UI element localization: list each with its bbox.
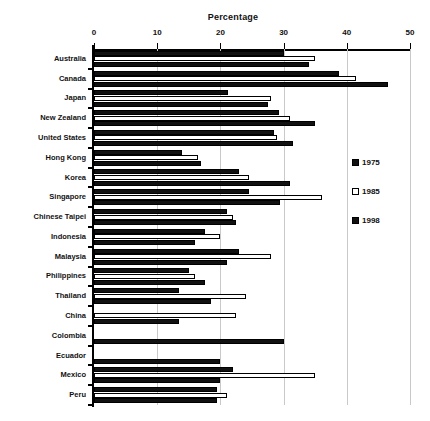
- chart-row: Peru: [0, 385, 430, 405]
- category-label: China: [0, 311, 86, 320]
- bar-1998: [94, 102, 268, 107]
- bar-1985: [94, 274, 195, 279]
- bar-1985: [94, 195, 322, 200]
- legend-label: 1975: [362, 158, 380, 167]
- bar-1998: [94, 121, 315, 126]
- x-tick-label: 50: [406, 28, 415, 37]
- bar-1998: [94, 161, 201, 166]
- bar-1998: [94, 378, 220, 383]
- bar-1985: [94, 175, 249, 180]
- x-tick-label: 30: [279, 28, 288, 37]
- chart-row: Ecuador: [0, 346, 430, 366]
- bar-1975: [94, 150, 182, 155]
- bar-1985: [94, 393, 227, 398]
- bar-1998: [94, 260, 227, 265]
- legend-item: 1998: [352, 216, 380, 225]
- bar-1998: [94, 82, 388, 87]
- category-label: Australia: [0, 54, 86, 63]
- bar-1985: [94, 373, 315, 378]
- bar-1998: [94, 220, 236, 225]
- bar-1985: [94, 96, 271, 101]
- chart-title: Percentage: [0, 12, 430, 22]
- chart-row: Philippines: [0, 267, 430, 287]
- chart-row: Japan: [0, 89, 430, 109]
- category-label: Colombia: [0, 331, 86, 340]
- bar-1975: [94, 229, 205, 234]
- bar-1975: [94, 288, 179, 293]
- bar-1998: [94, 181, 290, 186]
- category-label: Philippines: [0, 271, 86, 280]
- bar-1985: [94, 215, 233, 220]
- category-label: Japan: [0, 93, 86, 102]
- legend-label: 1998: [362, 216, 380, 225]
- bar-1998: [94, 359, 220, 364]
- chart-row: United States: [0, 128, 430, 148]
- bar-1985: [94, 294, 246, 299]
- bar-1975: [94, 209, 227, 214]
- bar-1985: [94, 116, 290, 121]
- x-tick-label: 10: [153, 28, 162, 37]
- x-tick-label: 0: [92, 28, 96, 37]
- bar-1998: [94, 339, 284, 344]
- legend-swatch-icon: [352, 159, 359, 166]
- bar-1975: [94, 51, 284, 56]
- chart-row: Canada: [0, 69, 430, 89]
- bar-1985: [94, 155, 198, 160]
- legend-swatch-icon: [352, 188, 359, 195]
- bar-1975: [94, 367, 233, 372]
- category-label: Indonesia: [0, 232, 86, 241]
- chart-row: New Zealand: [0, 108, 430, 128]
- bar-chart: Percentage 01020304050 AustraliaCanadaJa…: [0, 0, 430, 421]
- chart-row: Indonesia: [0, 227, 430, 247]
- category-label: Peru: [0, 390, 86, 399]
- category-label: Malaysia: [0, 252, 86, 261]
- bar-1985: [94, 135, 277, 140]
- chart-row: Australia: [0, 49, 430, 69]
- bar-1998: [94, 200, 280, 205]
- x-tick-label: 20: [216, 28, 225, 37]
- bar-1998: [94, 141, 293, 146]
- category-label: Thailand: [0, 291, 86, 300]
- category-label: Korea: [0, 173, 86, 182]
- bar-1975: [94, 387, 217, 392]
- chart-row: Malaysia: [0, 247, 430, 267]
- bar-1975: [94, 169, 239, 174]
- category-label: United States: [0, 133, 86, 142]
- category-tick: [88, 404, 93, 406]
- bar-1998: [94, 280, 205, 285]
- bar-1985: [94, 56, 315, 61]
- bar-1975: [94, 249, 239, 254]
- bar-1975: [94, 110, 279, 115]
- bar-1975: [94, 130, 274, 135]
- bar-1998: [94, 319, 179, 324]
- bar-1985: [94, 254, 271, 259]
- chart-row: Mexico: [0, 365, 430, 385]
- bar-1975: [94, 268, 189, 273]
- bar-1975: [94, 90, 228, 95]
- chart-row: China: [0, 306, 430, 326]
- bar-1998: [94, 62, 309, 67]
- category-label: Singapore: [0, 192, 86, 201]
- bar-1998: [94, 299, 211, 304]
- chart-row: Colombia: [0, 326, 430, 346]
- category-label: Hong Kong: [0, 153, 86, 162]
- category-label: New Zealand: [0, 113, 86, 122]
- bar-1985: [94, 313, 236, 318]
- bar-1998: [94, 240, 195, 245]
- chart-row: Korea: [0, 168, 430, 188]
- category-label: Ecuador: [0, 351, 86, 360]
- category-label: Chinese Taipei: [0, 212, 86, 221]
- legend-label: 1985: [362, 187, 380, 196]
- bar-1985: [94, 76, 356, 81]
- legend-item: 1975: [352, 158, 380, 167]
- bar-1975: [94, 71, 339, 76]
- x-tick-label: 40: [342, 28, 351, 37]
- legend-item: 1985: [352, 187, 380, 196]
- bar-1998: [94, 398, 217, 403]
- bar-1975: [94, 189, 249, 194]
- legend-swatch-icon: [352, 217, 359, 224]
- category-label: Canada: [0, 74, 86, 83]
- category-label: Mexico: [0, 370, 86, 379]
- chart-row: Thailand: [0, 286, 430, 306]
- bar-1985: [94, 234, 220, 239]
